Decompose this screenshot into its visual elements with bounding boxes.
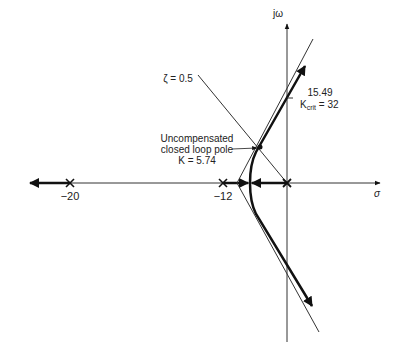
closed-loop-pole-label-line3: K = 5.74 (178, 155, 216, 166)
root-locus-diagram: −20 −12 σ jω ζ = 0.5 Uncompensated close… (0, 0, 399, 350)
pole-label-minus-12: −12 (214, 190, 233, 202)
asymptote-lower (237, 183, 319, 332)
damping-ratio-label: ζ = 0.5 (163, 73, 193, 85)
pole-label-minus-20: −20 (61, 190, 80, 202)
k-crit-label: Kcrit = 32 (300, 99, 339, 111)
locus-branch-lower (250, 183, 312, 306)
closed-loop-pole-label-line1: Uncompensated (161, 133, 234, 144)
locus-branch-upper (250, 66, 305, 183)
asymptote-upper (237, 39, 313, 183)
crossing-value-label: 15.49 (307, 87, 332, 98)
pole-pointer-line (232, 148, 257, 149)
damping-ratio-line (198, 75, 287, 183)
jw-axis-label: jω (272, 8, 283, 19)
closed-loop-pole-dot (258, 145, 263, 150)
sigma-axis-label: σ (374, 188, 381, 199)
closed-loop-pole-label-line2: closed loop pole (161, 144, 234, 155)
